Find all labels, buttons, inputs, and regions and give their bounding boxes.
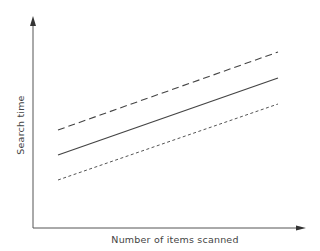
x-axis-arrow-icon [296, 226, 306, 231]
series-line-dotted [58, 104, 278, 180]
y-axis-label: Search time [15, 95, 26, 154]
series-group [58, 52, 278, 180]
series-line-solid [58, 78, 278, 155]
chart-canvas [0, 0, 320, 251]
series-line-dashed [58, 52, 278, 130]
x-axis-label: Number of items scanned [0, 234, 320, 245]
y-axis-arrow-icon [30, 16, 36, 26]
